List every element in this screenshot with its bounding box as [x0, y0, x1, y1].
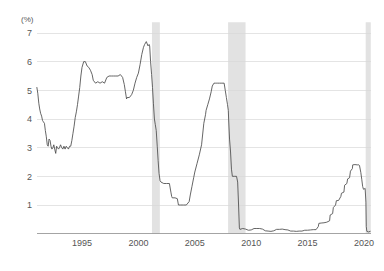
y-tick-label: 4	[27, 114, 32, 124]
y-tick-label: 2	[27, 172, 32, 182]
y-axis-tick-labels: 1234567	[27, 28, 32, 210]
chart-container: 1234567 199520002005201020152020 (%)	[0, 0, 384, 271]
x-tick-label: 2005	[185, 238, 205, 248]
gridlines-group	[37, 33, 371, 205]
series-group	[37, 42, 370, 232]
y-axis-unit-label: (%)	[21, 15, 34, 24]
y-tick-label: 6	[27, 57, 32, 67]
x-axis-tick-labels: 199520002005201020152020	[72, 238, 374, 248]
x-tick-label: 2020	[354, 238, 374, 248]
y-tick-label: 1	[27, 200, 32, 210]
x-tick-label: 2000	[128, 238, 148, 248]
recession-bands-group	[152, 22, 371, 233]
x-tick-label: 2010	[241, 238, 261, 248]
recession-band	[366, 22, 371, 233]
y-tick-label: 7	[27, 28, 32, 38]
data-series-line	[37, 42, 370, 232]
y-tick-label: 3	[27, 143, 32, 153]
line-chart: 1234567 199520002005201020152020 (%)	[0, 0, 384, 271]
y-tick-label: 5	[27, 86, 32, 96]
x-tick-label: 2015	[298, 238, 318, 248]
recession-band	[228, 22, 245, 233]
x-tick-label: 1995	[72, 238, 92, 248]
